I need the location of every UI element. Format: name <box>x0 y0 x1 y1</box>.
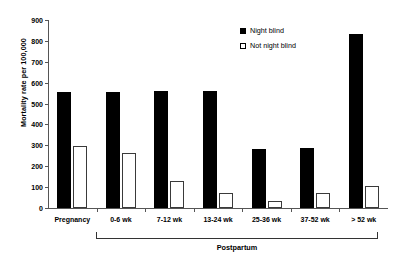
y-tick-label: 600 <box>31 79 43 86</box>
bar-group <box>300 20 330 208</box>
y-tick-mark <box>45 83 49 84</box>
bar <box>203 91 217 208</box>
bar <box>219 193 233 208</box>
x-tick-label: 0-6 wk <box>110 216 131 223</box>
y-tick-label: 800 <box>31 37 43 44</box>
x-tick-label: 37-52 wk <box>301 216 330 223</box>
bar <box>170 181 184 208</box>
postpartum-bracket-label: Postpartum <box>96 243 378 252</box>
y-tick-label: 300 <box>31 142 43 149</box>
legend-label: Night blind <box>250 26 284 35</box>
bar <box>252 149 266 208</box>
bar <box>122 153 136 208</box>
bar-chart: Mortality rate per 100,000 0100200300400… <box>0 0 395 268</box>
x-tick-label: 7-12 wk <box>157 216 182 223</box>
bar <box>154 91 168 208</box>
x-tick-mark <box>194 208 195 212</box>
legend-label: Not night blind <box>250 41 296 50</box>
y-tick-mark <box>45 41 49 42</box>
bar <box>106 92 120 208</box>
bar-group <box>106 20 136 208</box>
y-tick-mark <box>45 187 49 188</box>
bar <box>57 92 71 208</box>
x-tick-mark <box>145 208 146 212</box>
y-axis-line <box>48 20 49 208</box>
y-tick-mark <box>45 145 49 146</box>
x-tick-mark <box>242 208 243 212</box>
y-tick-label: 900 <box>31 17 43 24</box>
y-tick-mark <box>45 20 49 21</box>
legend-item-night-blind: Night blind <box>240 26 296 35</box>
y-axis-title: Mortality rate per 100,000 <box>19 8 28 158</box>
y-tick-mark <box>45 104 49 105</box>
x-tick-label: Pregnancy <box>54 216 90 223</box>
x-tick-mark <box>291 208 292 212</box>
bar-group <box>203 20 233 208</box>
bar <box>300 148 314 208</box>
bar <box>268 201 282 208</box>
bar-group <box>57 20 87 208</box>
bar-group <box>154 20 184 208</box>
y-tick-label: 100 <box>31 184 43 191</box>
filled-square-icon <box>240 28 246 34</box>
bar <box>365 186 379 208</box>
x-tick-mark <box>97 208 98 212</box>
legend-item-not-night-blind: Not night blind <box>240 41 296 50</box>
y-tick-mark <box>45 124 49 125</box>
y-tick-label: 400 <box>31 121 43 128</box>
legend: Night blind Not night blind <box>240 26 296 56</box>
y-tick-label: 0 <box>39 205 43 212</box>
y-tick-label: 500 <box>31 100 43 107</box>
x-tick-label: 25-36 wk <box>252 216 281 223</box>
x-tick-mark <box>339 208 340 212</box>
y-tick-mark <box>45 166 49 167</box>
bar <box>316 193 330 208</box>
bar-group <box>349 20 379 208</box>
x-tick-label: 13-24 wk <box>203 216 232 223</box>
x-tick-label: > 52 wk <box>351 216 376 223</box>
plot-area: 0100200300400500600700800900 Pregnancy0-… <box>48 20 388 208</box>
y-tick-mark <box>45 208 49 209</box>
bar <box>349 34 363 208</box>
y-tick-mark <box>45 62 49 63</box>
x-axis-line <box>48 208 388 209</box>
postpartum-bracket <box>96 232 378 239</box>
open-square-icon <box>240 43 246 49</box>
y-tick-label: 200 <box>31 163 43 170</box>
y-tick-label: 700 <box>31 58 43 65</box>
bar <box>73 146 87 208</box>
